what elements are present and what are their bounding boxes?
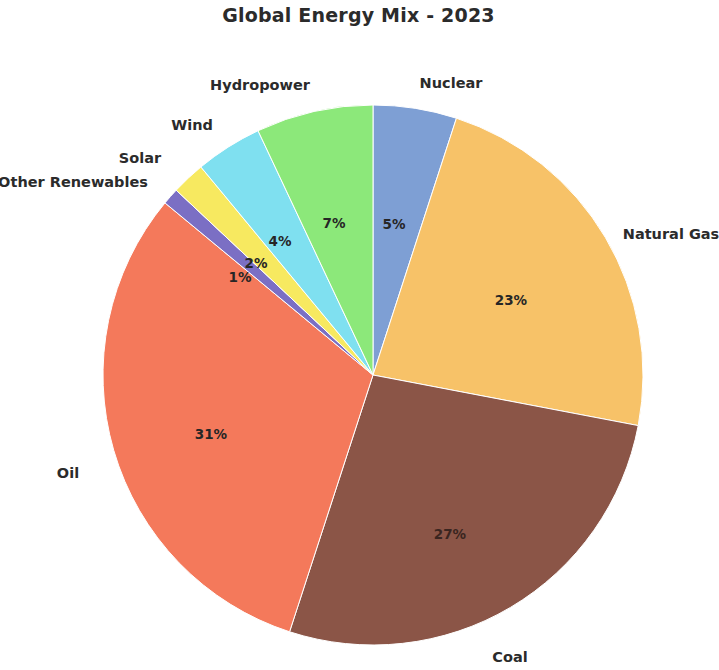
slice-label-solar: Solar	[119, 150, 161, 166]
slice-percent-oil: 31%	[195, 426, 227, 442]
slice-label-wind: Wind	[171, 117, 213, 133]
slice-label-hydropower: Hydropower	[210, 77, 310, 93]
slice-percent-coal: 27%	[434, 526, 466, 542]
slice-percent-solar: 2%	[245, 255, 268, 271]
slice-percent-hydropower: 7%	[323, 215, 346, 231]
slice-label-nuclear: Nuclear	[420, 75, 483, 91]
slice-label-oil: Oil	[57, 465, 79, 481]
slice-label-natural-gas: Natural Gas	[623, 226, 719, 242]
pie-slices-group	[103, 105, 643, 645]
slice-label-coal: Coal	[492, 649, 527, 665]
slice-percent-natural-gas: 23%	[495, 292, 527, 308]
slice-percent-wind: 4%	[269, 233, 292, 249]
slice-percent-nuclear: 5%	[383, 216, 406, 232]
slice-percent-other-renewables: 1%	[229, 269, 252, 285]
slice-label-other-renewables: Other Renewables	[0, 174, 148, 190]
